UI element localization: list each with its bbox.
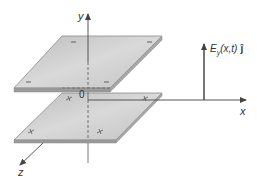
field-label-args: (x,t) (220, 43, 237, 54)
y-axis-label: y (77, 10, 85, 22)
z-axis-label: z (17, 166, 24, 178)
field-label: Ey(x,t)ĵ (210, 43, 244, 57)
field-label-unit: ĵ (239, 43, 244, 54)
parallel-plate-diagram: y x z 0 Ey(x,t)ĵ (0, 0, 257, 184)
origin-label: 0 (79, 89, 85, 100)
x-axis-label: x (239, 105, 246, 117)
